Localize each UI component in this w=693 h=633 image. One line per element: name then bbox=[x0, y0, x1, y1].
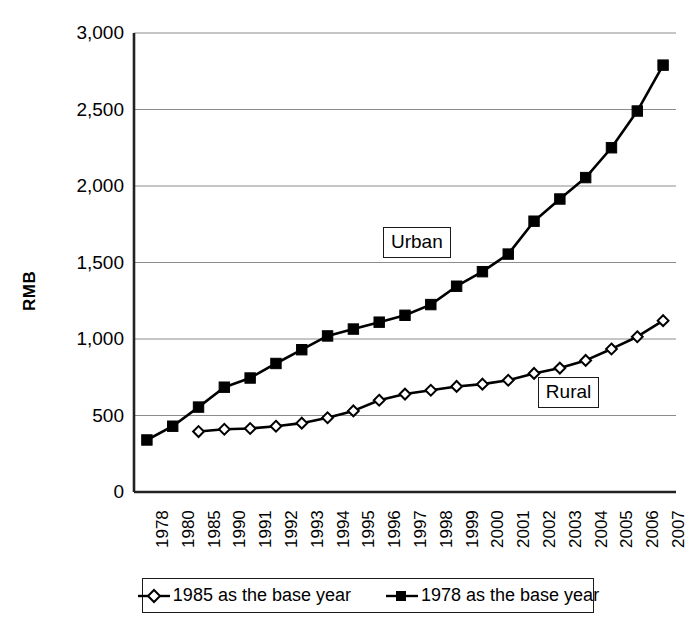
data-point-marker bbox=[400, 310, 410, 320]
chart-container: RMB 05001,0001,5002,0002,5003,000 197819… bbox=[0, 0, 693, 633]
data-point-marker bbox=[451, 381, 462, 392]
y-axis-tick-label: 3,000 bbox=[0, 23, 124, 42]
data-point-marker bbox=[322, 412, 333, 423]
legend-item-label: 1985 as the base year bbox=[171, 585, 351, 606]
data-point-marker bbox=[374, 317, 384, 327]
data-point-marker bbox=[580, 172, 590, 182]
data-point-marker bbox=[554, 363, 565, 374]
x-axis-tick-label: 2007 bbox=[670, 510, 687, 548]
data-point-marker bbox=[606, 344, 617, 355]
x-axis-tick-label: 1978 bbox=[154, 510, 171, 548]
data-point-marker bbox=[529, 216, 539, 226]
data-point-marker bbox=[451, 281, 461, 291]
x-axis-tick-label: 1998 bbox=[438, 510, 455, 548]
y-axis-tick-label: 2,000 bbox=[0, 176, 124, 195]
data-point-marker bbox=[193, 426, 204, 437]
legend-item[interactable]: 1985 as the base year bbox=[137, 585, 351, 606]
legend-item[interactable]: 1978 as the base year bbox=[385, 585, 599, 606]
data-point-marker bbox=[426, 299, 436, 309]
data-point-marker bbox=[245, 373, 255, 383]
data-point-marker bbox=[168, 421, 178, 431]
data-point-marker bbox=[400, 389, 411, 400]
x-axis-tick-label: 2001 bbox=[515, 510, 532, 548]
x-axis-tick-label: 1993 bbox=[309, 510, 326, 548]
x-axis-tick-label: 2002 bbox=[541, 510, 558, 548]
y-axis-tick-label: 2,500 bbox=[0, 100, 124, 119]
y-axis-tick-label: 1,500 bbox=[0, 253, 124, 272]
x-axis-tick-label: 1994 bbox=[335, 510, 352, 548]
y-axis-title: RMB bbox=[20, 271, 40, 311]
data-point-marker bbox=[219, 424, 230, 435]
data-point-marker bbox=[477, 379, 488, 390]
x-axis-tick-label: 1992 bbox=[283, 510, 300, 548]
data-point-marker bbox=[477, 266, 487, 276]
data-point-marker bbox=[503, 249, 513, 259]
chart-legend: 1985 as the base year1978 as the base ye… bbox=[142, 578, 594, 613]
filled-square-icon bbox=[385, 587, 419, 605]
annotation-urban: Urban bbox=[383, 227, 451, 258]
data-point-marker bbox=[658, 60, 668, 70]
data-point-marker bbox=[296, 418, 307, 429]
data-point-marker bbox=[245, 423, 256, 434]
data-point-marker bbox=[322, 331, 332, 341]
y-axis-tick-label: 1,000 bbox=[0, 329, 124, 348]
x-axis-tick-label: 2006 bbox=[644, 510, 661, 548]
data-point-marker bbox=[271, 421, 282, 432]
data-point-marker bbox=[219, 382, 229, 392]
data-point-marker bbox=[606, 143, 616, 153]
data-point-marker bbox=[503, 375, 514, 386]
data-point-marker bbox=[348, 406, 359, 417]
x-axis-tick-label: 1991 bbox=[257, 510, 274, 548]
x-axis-tick-label: 2004 bbox=[593, 510, 610, 548]
annotation-rural: Rural bbox=[538, 377, 599, 408]
x-axis-tick-label: 2003 bbox=[567, 510, 584, 548]
data-point-marker bbox=[425, 385, 436, 396]
x-axis-tick-label: 2000 bbox=[489, 510, 506, 548]
data-point-marker bbox=[297, 345, 307, 355]
y-axis-tick-label: 500 bbox=[0, 406, 124, 425]
x-axis-tick-label: 1995 bbox=[360, 510, 377, 548]
legend-item-label: 1978 as the base year bbox=[419, 585, 599, 606]
open-diamond-icon bbox=[137, 587, 171, 605]
x-axis-tick-label: 1985 bbox=[206, 510, 223, 548]
data-point-marker bbox=[271, 358, 281, 368]
x-axis-tick-label: 1997 bbox=[412, 510, 429, 548]
data-point-marker bbox=[580, 355, 591, 366]
data-point-marker bbox=[632, 106, 642, 116]
y-axis-tick-label: 0 bbox=[0, 482, 124, 501]
x-axis-tick-label: 2005 bbox=[618, 510, 635, 548]
data-point-marker bbox=[374, 395, 385, 406]
x-axis-tick-label: 1990 bbox=[231, 510, 248, 548]
x-axis-tick-label: 1999 bbox=[464, 510, 481, 548]
data-point-marker bbox=[142, 435, 152, 445]
data-point-marker bbox=[348, 324, 358, 334]
x-axis-tick-label: 1980 bbox=[180, 510, 197, 548]
data-point-marker bbox=[555, 194, 565, 204]
data-point-marker bbox=[193, 402, 203, 412]
x-axis-tick-label: 1996 bbox=[386, 510, 403, 548]
